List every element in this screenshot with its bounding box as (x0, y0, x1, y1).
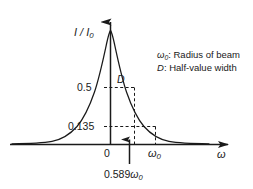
pointer-value-label: 0.589ω0 (104, 169, 143, 181)
y-axis-label-slash: / (77, 26, 86, 38)
plot-canvas (0, 0, 253, 189)
legend-text-omega-zero: : Radius of beam (168, 49, 240, 60)
y-axis-label: I / I0 (74, 27, 94, 40)
omega-zero-subscript: 0 (157, 152, 161, 161)
y-tick-label-0135: 0.135 (68, 121, 94, 132)
x-tick-label-origin: 0 (104, 148, 110, 159)
omega-zero-base: ω (148, 147, 157, 159)
y-axis-label-subscript: 0 (89, 31, 93, 40)
gaussian-beam-profile-figure: I / I0 0.5 0.135 D 0 ω0 ω 0.589ω0 ω0: Ra… (0, 0, 253, 189)
pointer-omega-subscript: 0 (138, 173, 142, 182)
pointer-numeric-value: 0.589 (104, 168, 130, 180)
half-value-width-annotation: D (117, 74, 125, 85)
x-axis-label: ω (217, 149, 226, 160)
y-tick-label-half: 0.5 (77, 82, 92, 93)
x-tick-label-omega-zero: ω0 (148, 148, 161, 161)
legend-text-d: : Half-value width (164, 62, 237, 73)
legend-symbol-d: D (157, 62, 164, 73)
legend-item-d: D: Half-value width (157, 63, 237, 73)
legend-item-omega-zero: ω0: Radius of beam (157, 50, 240, 61)
